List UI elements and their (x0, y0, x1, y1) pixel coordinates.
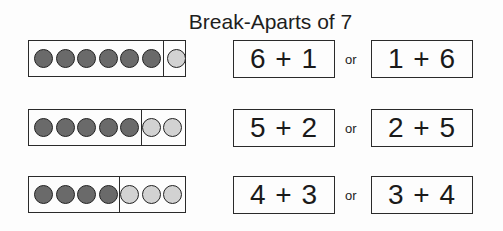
dark-counter (142, 49, 161, 68)
equation-box: 1 + 6 (371, 40, 473, 78)
counter-frame (28, 176, 186, 213)
break-apart-row: 5 + 2 or 2 + 5 (0, 109, 503, 149)
equation-box: 3 + 4 (371, 176, 473, 214)
light-counter (142, 118, 161, 137)
dark-counter (99, 185, 118, 204)
dark-counter (34, 49, 53, 68)
equation-box: 6 + 1 (233, 40, 335, 78)
dark-counter (99, 49, 118, 68)
equation-box: 4 + 3 (233, 176, 335, 214)
dark-counter (77, 118, 96, 137)
dark-counter (99, 118, 118, 137)
dark-counter (56, 49, 75, 68)
counter-frame (28, 40, 186, 77)
break-apart-row: 4 + 3 or 3 + 4 (0, 176, 503, 216)
break-apart-row: 6 + 1 or 1 + 6 (0, 40, 503, 80)
dark-counter (77, 49, 96, 68)
counter-frame (28, 109, 186, 146)
light-counter (142, 185, 161, 204)
dark-counter (77, 185, 96, 204)
light-counter (167, 49, 186, 68)
page-title: Break-Aparts of 7 (0, 10, 503, 34)
light-counter (120, 185, 139, 204)
frame-divider (163, 41, 164, 76)
light-counter (163, 185, 182, 204)
equation-box: 5 + 2 (233, 109, 335, 147)
equation-box: 2 + 5 (371, 109, 473, 147)
dark-counter (56, 118, 75, 137)
dark-counter (56, 185, 75, 204)
or-label: or (345, 121, 357, 136)
or-label: or (345, 52, 357, 67)
dark-counter (34, 185, 53, 204)
dark-counter (120, 118, 139, 137)
or-label: or (345, 188, 357, 203)
frame-divider (119, 177, 120, 212)
dark-counter (120, 49, 139, 68)
frame-divider (141, 110, 142, 145)
dark-counter (34, 118, 53, 137)
light-counter (163, 118, 182, 137)
